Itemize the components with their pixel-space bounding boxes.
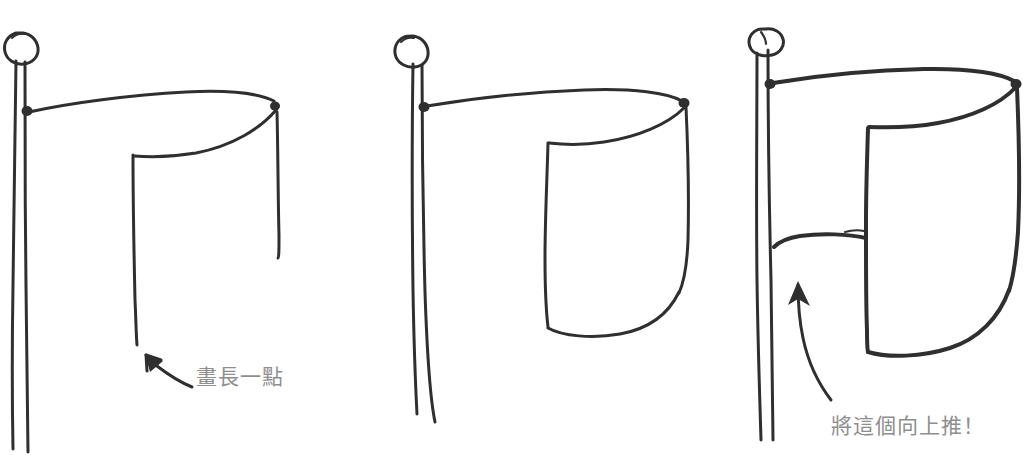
annotation-label-draw-longer: 畫長一點: [196, 367, 284, 388]
annotation-label-push-up: 將這個向上推！: [831, 416, 985, 437]
flag-fold-left-edge-2: [545, 143, 548, 327]
flag-bottom-curve-2: [548, 292, 679, 336]
flagpole-left-edge-2: [412, 64, 417, 414]
drawing-canvas: 畫長一點 將這個向上推！: [0, 0, 1034, 461]
flag-top-edge: [29, 91, 274, 112]
flag-fold-curve-3: [869, 88, 1015, 127]
flagpole-right-edge-2: [422, 65, 435, 422]
flag-fold-left-edge: [133, 155, 137, 345]
pole-finial-icon: [4, 33, 38, 64]
flagpole-left-edge-3: [757, 53, 761, 440]
flag-top-edge-2: [427, 90, 682, 106]
flag-right-edge-2: [679, 107, 688, 293]
annotation-arrow-2: [798, 285, 831, 400]
flag-pushed-up-hem: [774, 234, 866, 247]
flag-fold-left-edge-lower-3: [866, 240, 868, 352]
flag-right-edge: [277, 112, 279, 258]
finial-highlight-3: [761, 32, 766, 44]
flag-fold-curve-2: [549, 108, 684, 144]
flag-fold-curve: [134, 110, 276, 157]
panel-3-illustration: [749, 29, 1022, 440]
flagpole-right-edge-3: [768, 50, 773, 440]
flag-right-edge-3: [1009, 88, 1019, 291]
panel-1-illustration: [4, 33, 280, 452]
sketch-illustration: [0, 0, 1034, 461]
panel-2-illustration: [395, 36, 690, 422]
flag-bottom-curve-3: [868, 290, 1009, 356]
flag-top-edge-3: [773, 69, 1014, 83]
pole-finial-icon-2: [395, 36, 428, 67]
flag-fold-left-edge-upper-3: [866, 128, 868, 238]
flag-pushed-up-hem-wisp: [845, 230, 864, 232]
flagpole-left-edge: [12, 61, 16, 449]
flagpole-right-edge: [25, 62, 28, 452]
